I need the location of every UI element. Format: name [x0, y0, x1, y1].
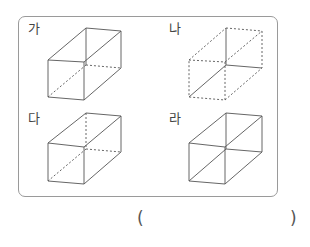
answer-close-paren: ): [290, 210, 297, 227]
answer-open-paren: (: [137, 210, 144, 227]
answer-input-area[interactable]: [146, 210, 290, 230]
